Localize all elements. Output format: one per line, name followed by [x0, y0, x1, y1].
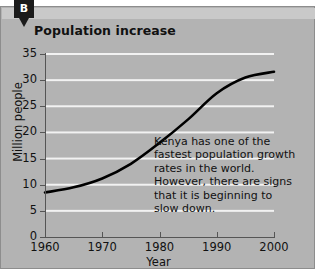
annotation-line: that it is beginning to — [154, 189, 292, 202]
y-tick — [40, 106, 45, 107]
figure-panel: Population increase 05101520253035 19601… — [0, 6, 315, 269]
y-tick — [40, 132, 45, 133]
chart-annotation: Kenya has one of thefastest population g… — [154, 135, 292, 215]
y-tick-label: 5 — [30, 203, 37, 217]
annotation-line: Kenya has one of the — [154, 135, 292, 148]
panel-letter-badge: B — [14, 0, 34, 18]
annotation-line: fastest population growth — [154, 148, 292, 161]
x-tick-label: 1980 — [139, 240, 181, 254]
x-tick — [217, 232, 218, 237]
x-tick — [45, 232, 46, 237]
x-tick — [160, 232, 161, 237]
x-axis-line — [45, 237, 275, 238]
x-tick — [274, 232, 275, 237]
y-axis-label: Million people — [11, 67, 25, 177]
panel-top-band — [2, 8, 315, 19]
y-tick — [40, 54, 45, 55]
x-tick-label: 1970 — [81, 240, 123, 254]
y-tick — [40, 185, 45, 186]
x-tick-label: 1990 — [196, 240, 238, 254]
chart-title: Population increase — [34, 23, 176, 38]
y-tick-label: 35 — [22, 46, 37, 60]
panel-badge-tail-icon — [19, 18, 29, 27]
x-tick — [102, 232, 103, 237]
y-tick — [40, 237, 45, 238]
annotation-line: rates in the world. — [154, 162, 292, 175]
y-tick-label: 10 — [22, 177, 37, 191]
annotation-line: slow down. — [154, 202, 292, 215]
annotation-line: However, there are signs — [154, 175, 292, 188]
y-axis-line — [45, 53, 46, 238]
y-tick — [40, 159, 45, 160]
y-tick — [40, 80, 45, 81]
x-axis-label: Year — [1, 255, 316, 269]
x-tick-label: 2000 — [253, 240, 295, 254]
y-tick — [40, 211, 45, 212]
x-tick-label: 1960 — [24, 240, 66, 254]
